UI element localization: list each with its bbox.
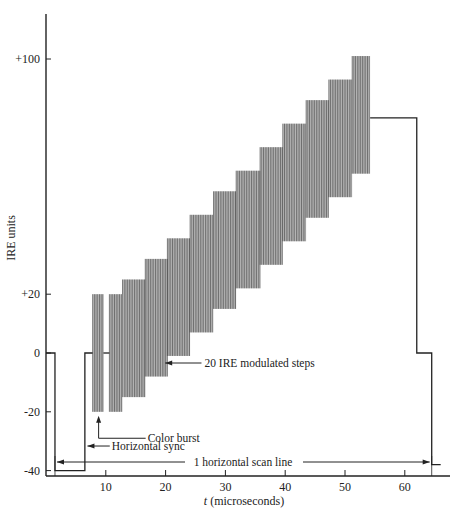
modulated-step: [236, 171, 260, 289]
burst-block: [93, 294, 104, 412]
modulated-step: [329, 80, 352, 198]
arrowhead-icon: [87, 444, 94, 449]
waveform-line: [46, 353, 93, 471]
steps-annotation: 20 IRE modulated steps: [204, 357, 315, 370]
modulated-step: [190, 215, 213, 333]
back-porch-line: [370, 118, 441, 465]
burst-block: [109, 294, 122, 412]
modulated-step: [306, 100, 329, 218]
y-tick-label: +100: [15, 52, 40, 66]
arrowhead-icon: [96, 416, 101, 423]
scan-line-annotation: 1 horizontal scan line: [194, 456, 293, 468]
x-tick-label: 50: [339, 480, 351, 494]
x-tick-label: 10: [100, 480, 112, 494]
y-tick-label: -40: [24, 464, 40, 478]
modulated-step: [352, 56, 370, 174]
modulated-step: [167, 238, 190, 356]
ire-waveform-chart: +100+200-20-40102030405060 20 IRE modula…: [0, 0, 453, 513]
modulated-step: [145, 259, 167, 377]
y-tick-label: -20: [24, 405, 40, 419]
y-tick-label: +20: [21, 287, 40, 301]
y-axis-label: IRE units: [4, 215, 18, 261]
x-tick-label: 30: [219, 480, 231, 494]
modulated-step: [213, 191, 236, 309]
y-tick-label: 0: [34, 346, 40, 360]
x-axis-label-unit: (microseconds): [207, 494, 284, 508]
modulated-step: [283, 124, 306, 242]
x-tick-label: 60: [399, 480, 411, 494]
arrowhead-icon: [423, 460, 430, 465]
x-tick-label: 40: [279, 480, 291, 494]
modulated-step: [260, 147, 283, 265]
x-tick-label: 20: [160, 480, 172, 494]
sync-annotation: Horizontal sync: [112, 440, 185, 453]
x-axis-label: t (microseconds): [204, 494, 284, 508]
modulated-steps: [123, 56, 371, 397]
modulated-step: [123, 280, 146, 398]
arrowhead-icon: [57, 460, 64, 465]
burst-leader-line: [99, 422, 146, 438]
